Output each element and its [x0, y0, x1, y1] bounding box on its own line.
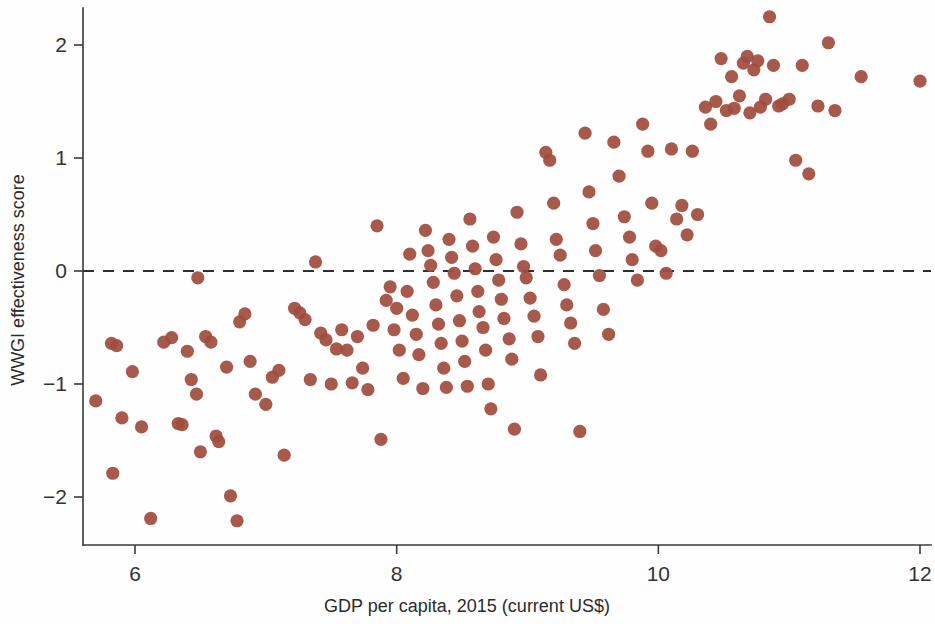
data-point [463, 212, 476, 225]
data-point [319, 333, 332, 346]
data-point [410, 328, 423, 341]
data-point [550, 233, 563, 246]
data-point [602, 328, 615, 341]
data-point [828, 104, 841, 117]
data-point [913, 75, 926, 88]
data-point [401, 285, 414, 298]
data-point [497, 312, 510, 325]
data-point [89, 394, 102, 407]
y-tick-label: −2 [43, 485, 67, 508]
data-point [440, 381, 453, 394]
data-point [802, 167, 815, 180]
data-point [547, 197, 560, 210]
data-point [578, 127, 591, 140]
data-point [728, 102, 741, 115]
data-point [238, 307, 251, 320]
data-point [272, 364, 285, 377]
data-point [432, 318, 445, 331]
x-axis-title: GDP per capita, 2015 (current US$) [324, 596, 610, 616]
data-point [356, 362, 369, 375]
data-point [403, 247, 416, 260]
data-point [704, 118, 717, 131]
plot-canvas: −2−1012681012 GDP per capita, 2015 (curr… [0, 0, 935, 624]
data-point [461, 380, 474, 393]
data-point [455, 334, 468, 347]
data-point [374, 433, 387, 446]
data-point [453, 314, 466, 327]
data-point [631, 273, 644, 286]
data-point [176, 418, 189, 431]
data-point [397, 372, 410, 385]
data-point [691, 208, 704, 221]
data-point [759, 93, 772, 106]
data-point [367, 319, 380, 332]
y-tick-label: 2 [55, 33, 67, 56]
data-point [419, 224, 432, 237]
data-point [448, 267, 461, 280]
data-point [471, 285, 484, 298]
data-point [751, 54, 764, 67]
data-point [429, 298, 442, 311]
data-point [564, 316, 577, 329]
data-point [573, 425, 586, 438]
data-point [450, 289, 463, 302]
data-point [645, 197, 658, 210]
data-point [654, 244, 667, 257]
data-point [437, 362, 450, 375]
plot-background [0, 0, 935, 624]
y-tick-label: 1 [55, 146, 67, 169]
data-point [484, 402, 497, 415]
data-point [190, 388, 203, 401]
data-point [479, 344, 492, 357]
data-point [212, 435, 225, 448]
data-point [224, 489, 237, 502]
data-point [351, 330, 364, 343]
data-point [660, 267, 673, 280]
data-point [144, 512, 157, 525]
data-point [607, 136, 620, 149]
data-point [586, 217, 599, 230]
data-point [508, 423, 521, 436]
data-point [495, 293, 508, 306]
data-point [298, 313, 311, 326]
data-point [796, 59, 809, 72]
data-point [524, 292, 537, 305]
data-point [220, 360, 233, 373]
data-point [435, 337, 448, 350]
data-point [106, 467, 119, 480]
data-point [445, 251, 458, 264]
data-point [725, 70, 738, 83]
data-point [427, 276, 440, 289]
data-point [482, 377, 495, 390]
data-point [472, 305, 485, 318]
data-point [733, 89, 746, 102]
data-point [767, 59, 780, 72]
data-point [531, 330, 544, 343]
data-point [335, 323, 348, 336]
data-point [783, 93, 796, 106]
data-point [416, 382, 429, 395]
data-point [181, 345, 194, 358]
data-point [612, 169, 625, 182]
data-point [597, 303, 610, 316]
data-point [855, 70, 868, 83]
scatter-plot-figure: −2−1012681012 GDP per capita, 2015 (curr… [0, 0, 935, 624]
data-point [115, 411, 128, 424]
data-point [487, 231, 500, 244]
data-point [244, 355, 257, 368]
data-point [406, 308, 419, 321]
data-point [670, 212, 683, 225]
data-point [527, 310, 540, 323]
x-tick-label: 8 [391, 562, 403, 585]
data-point [346, 376, 359, 389]
y-tick-label: 0 [55, 259, 67, 282]
data-point [665, 142, 678, 155]
data-point [490, 253, 503, 266]
data-point [543, 154, 556, 167]
data-point [560, 298, 573, 311]
data-point [510, 206, 523, 219]
data-point [185, 373, 198, 386]
data-point [309, 255, 322, 268]
y-tick-label: −1 [43, 372, 67, 395]
data-point [230, 514, 243, 527]
